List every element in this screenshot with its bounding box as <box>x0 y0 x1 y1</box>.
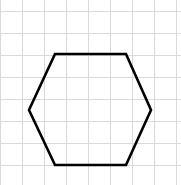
figure-svg <box>0 0 181 185</box>
figure-canvas <box>0 0 181 185</box>
canvas-background <box>0 0 181 185</box>
